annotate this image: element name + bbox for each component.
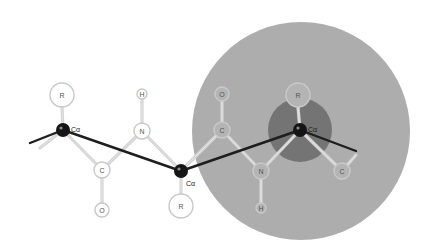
alpha-carbon-label: Cα (308, 126, 317, 133)
atom-r: R (169, 194, 193, 218)
atom-c: C (334, 163, 350, 179)
atom-h: H (137, 89, 147, 99)
peptide-chain-diagram: RCONHRCONHRC CαCαCα (0, 0, 436, 252)
atom-o: O (215, 87, 229, 101)
atom-label: C (219, 127, 224, 134)
atom-label: N (139, 128, 144, 135)
atom-label: R (295, 92, 300, 99)
alpha-carbon-label: Cα (186, 180, 195, 187)
alpha-carbon-highlight (59, 126, 62, 129)
atom-c: C (214, 122, 230, 138)
alpha-carbon-sphere (56, 123, 70, 137)
atom-label: C (339, 168, 344, 175)
atom-n: N (134, 123, 150, 139)
atom-label: N (258, 168, 263, 175)
alpha-carbon-label: Cα (71, 126, 80, 133)
atom-label: R (178, 203, 183, 210)
atom-label: C (99, 167, 104, 174)
atom-label: O (219, 91, 225, 98)
atom-c: C (94, 162, 110, 178)
atom-label: H (258, 205, 263, 212)
atom-label: R (59, 92, 64, 99)
alpha-carbon-sphere (293, 123, 307, 137)
atom-r: R (50, 83, 74, 107)
atom-n: N (253, 163, 269, 179)
alpha-carbon-highlight (296, 126, 299, 129)
atom-h: H (256, 203, 266, 213)
atom-o: O (95, 203, 109, 217)
atom-label: O (99, 207, 105, 214)
atom-r: R (286, 83, 310, 107)
alpha-carbon-sphere (174, 164, 188, 178)
atom-label: H (139, 91, 144, 98)
alpha-carbon-highlight (177, 167, 180, 170)
